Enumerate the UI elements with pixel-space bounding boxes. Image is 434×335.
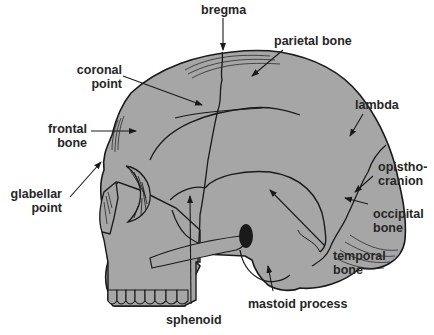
ear-canal [239, 224, 253, 248]
label-bregma: bregma [201, 3, 246, 17]
label-occipital-bone: occipital bone [373, 207, 424, 235]
label-glabellar-point: glabellar point [2, 187, 62, 215]
teeth [108, 290, 188, 304]
label-opisthocranion: opistho- cranion [378, 160, 427, 188]
label-frontal-bone: frontal bone [30, 122, 87, 150]
label-parietal-bone: parietal bone [274, 34, 352, 48]
skull-illustration [0, 0, 434, 335]
label-coronal-point: coronal point [66, 63, 122, 91]
label-sphenoid: sphenoid [166, 313, 222, 327]
skull-diagram: bregma parietal bone coronal point lambd… [0, 0, 434, 335]
label-lambda: lambda [355, 98, 399, 112]
label-temporal-bone: temporal bone [333, 249, 386, 277]
arrow-glabellar [70, 162, 101, 197]
label-mastoid-process: mastoid process [248, 297, 347, 311]
